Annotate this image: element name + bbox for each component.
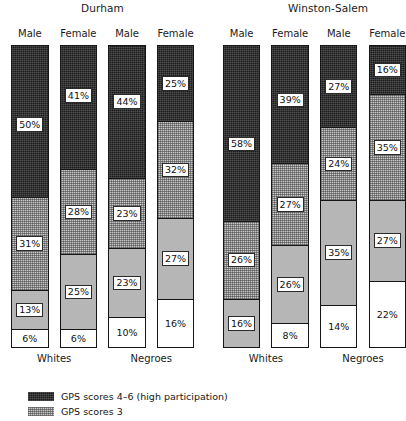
bar-segment-hatch: 31%	[12, 197, 47, 290]
bar-segment-gray: 26%	[272, 245, 307, 323]
bar-segment-gray: 25%	[61, 254, 96, 329]
segment-value-label: 44%	[113, 94, 140, 109]
segment-value-label: 24%	[325, 157, 352, 172]
segment-value-label: 13%	[16, 303, 43, 318]
segment-value-label: 8%	[281, 330, 300, 342]
stacked-bar-chart: DurhamWinston-Salem Male50%31%13%6%Femal…	[0, 0, 406, 421]
segment-value-label: 35%	[374, 140, 401, 155]
bar-segment-hatch: 26%	[224, 221, 259, 299]
segment-value-label: 32%	[162, 163, 189, 178]
segment-value-label: 16%	[163, 318, 188, 330]
stacked-bar: 39%27%26%8%	[271, 45, 308, 348]
bar-segment-dark: 39%	[272, 46, 307, 163]
city-title: Winston-Salem	[288, 2, 368, 14]
bar-column-durham-whites-female: Female41%28%25%6%	[60, 28, 97, 348]
segment-value-label: 23%	[113, 206, 140, 221]
segment-value-label: 26%	[228, 253, 255, 268]
segment-value-label: 26%	[277, 277, 304, 292]
bar-segment-gray: 27%	[158, 218, 193, 299]
race-group-label: Negroes	[108, 353, 194, 364]
legend-swatch-dark	[28, 392, 54, 401]
bar-column-durham-whites-male: Male50%31%13%6%	[11, 28, 48, 348]
stacked-bar: 27%24%35%14%	[320, 45, 357, 348]
sex-label: Male	[223, 28, 260, 39]
bar-segment-dark: 16%	[370, 46, 405, 94]
segment-value-label: 31%	[16, 236, 43, 251]
city-title: Durham	[81, 2, 124, 14]
bar-segment-dark: 44%	[109, 46, 144, 178]
stacked-bar: 16%35%27%22%	[369, 45, 406, 348]
segment-value-label: 58%	[228, 137, 255, 152]
stacked-bar: 44%23%23%10%	[108, 45, 145, 348]
bar-column-durham-negroes-female: Female25%32%27%16%	[157, 28, 194, 348]
bar-segment-white: 8%	[272, 323, 307, 347]
bar-column-ws-whites-male: Male58%26%16%	[223, 28, 260, 348]
bar-segment-white: 10%	[109, 317, 144, 347]
bar-column-durham-negroes-male: Male44%23%23%10%	[108, 28, 145, 348]
stacked-bar: 25%32%27%16%	[157, 45, 194, 348]
segment-value-label: 35%	[325, 245, 352, 260]
sex-label: Male	[108, 28, 145, 39]
bar-segment-dark: 25%	[158, 46, 193, 121]
segment-value-label: 27%	[374, 233, 401, 248]
segment-value-label: 16%	[228, 316, 255, 331]
segment-value-label: 23%	[113, 276, 140, 291]
segment-value-label: 25%	[65, 285, 92, 300]
bar-segment-white: 6%	[12, 329, 47, 347]
race-group-label: Whites	[223, 353, 309, 364]
legend-item: GPS scores 3	[0, 404, 406, 419]
bar-segment-hatch: 35%	[370, 94, 405, 199]
legend-label: GPS scores 4–6 (high participation)	[61, 391, 228, 402]
bar-segment-white: 6%	[61, 329, 96, 347]
bar-segment-hatch: 27%	[272, 163, 307, 244]
bar-segment-white: 16%	[158, 299, 193, 347]
race-group-label: Negroes	[320, 353, 406, 364]
sex-label: Female	[369, 28, 406, 39]
stacked-bar: 41%28%25%6%	[60, 45, 97, 348]
stacked-bar: 58%26%16%	[223, 45, 260, 348]
segment-value-label: 27%	[162, 251, 189, 266]
bar-segment-hatch: 23%	[109, 178, 144, 247]
segment-value-label: 16%	[374, 63, 401, 78]
bar-segment-gray: 16%	[224, 299, 259, 347]
bar-segment-dark: 50%	[12, 46, 47, 197]
sex-label: Female	[157, 28, 194, 39]
race-group-label: Whites	[11, 353, 97, 364]
stacked-bar: 50%31%13%6%	[11, 45, 48, 348]
bar-segment-dark: 41%	[61, 46, 96, 169]
segment-value-label: 14%	[326, 321, 351, 333]
bar-column-ws-negroes-male: Male27%24%35%14%	[320, 28, 357, 348]
bar-segment-hatch: 24%	[321, 127, 356, 199]
chart-legend: GPS scores 4–6 (high participation)GPS s…	[0, 389, 406, 419]
bar-segment-hatch: 32%	[158, 121, 193, 217]
bar-segment-gray: 27%	[370, 200, 405, 281]
sex-label: Male	[320, 28, 357, 39]
segment-value-label: 6%	[69, 333, 88, 345]
segment-value-label: 6%	[20, 333, 39, 345]
segment-value-label: 39%	[277, 93, 304, 108]
segment-value-label: 27%	[325, 79, 352, 94]
segment-value-label: 27%	[277, 197, 304, 212]
bar-column-ws-whites-female: Female39%27%26%8%	[271, 28, 308, 348]
segment-value-label: 10%	[114, 327, 139, 339]
legend-swatch-hatch	[28, 407, 54, 416]
sex-label: Male	[11, 28, 48, 39]
bar-segment-dark: 58%	[224, 46, 259, 221]
sex-label: Female	[60, 28, 97, 39]
bar-segment-gray: 35%	[321, 200, 356, 305]
bar-segment-dark: 27%	[321, 46, 356, 127]
sex-label: Female	[271, 28, 308, 39]
bar-segment-gray: 23%	[109, 248, 144, 317]
legend-label: GPS scores 3	[61, 406, 123, 417]
segment-value-label: 25%	[162, 76, 189, 91]
bar-segment-gray: 13%	[12, 290, 47, 329]
bar-segment-hatch: 28%	[61, 169, 96, 253]
segment-value-label: 28%	[65, 205, 92, 220]
segment-value-label: 50%	[16, 117, 43, 132]
legend-item: GPS scores 4–6 (high participation)	[0, 389, 406, 404]
bar-segment-white: 22%	[370, 281, 405, 347]
segment-value-label: 41%	[65, 88, 92, 103]
bar-column-ws-negroes-female: Female16%35%27%22%	[369, 28, 406, 348]
bar-segment-white: 14%	[321, 305, 356, 347]
segment-value-label: 22%	[375, 309, 400, 321]
